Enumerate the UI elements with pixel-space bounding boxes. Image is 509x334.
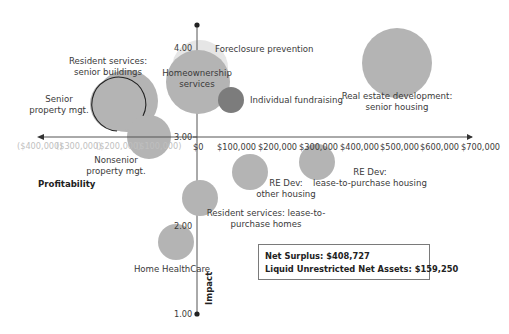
label-resident-services-senior-2: senior buildings bbox=[74, 67, 143, 77]
x-axis-left-arrow-icon bbox=[37, 134, 44, 140]
label-resident-services-senior-1: Resident services: bbox=[69, 56, 147, 66]
y-tick-label-1: 1.00 bbox=[174, 309, 192, 319]
x-tick-label-neg-200k: ($200,000) bbox=[96, 141, 141, 151]
x-tick-label-700k: $700,000 bbox=[461, 142, 500, 152]
label-home-healthcare: Home HealthCare bbox=[134, 264, 210, 274]
y-axis-bottom-dot-icon bbox=[194, 311, 199, 316]
x-tick-label-0: $0 bbox=[193, 142, 203, 152]
label-resident-services-ltp-1: Resident services: lease-to- bbox=[207, 208, 326, 218]
y-axis-title: Impact bbox=[204, 272, 214, 305]
label-re-senior-housing-1: Real estate development: bbox=[342, 91, 453, 101]
label-foreclosure-prevention: Foreclosure prevention bbox=[215, 44, 314, 54]
label-nonsenior-property-mgt-2: property mgt. bbox=[86, 166, 145, 176]
label-homeownership-services-2: services bbox=[179, 79, 215, 89]
label-senior-property-mgt-2: property mgt. bbox=[29, 105, 88, 115]
net-surplus: Net Surplus: $408,727 bbox=[265, 250, 423, 263]
y-tick-label-2: 2.00 bbox=[174, 221, 192, 231]
x-tick-label-400k: $400,000 bbox=[340, 142, 379, 152]
x-tick-label-600k: $600,000 bbox=[420, 142, 459, 152]
x-tick-label-neg-100k: ($100,000) bbox=[136, 141, 181, 151]
label-homeownership-services-1: Homeownership bbox=[162, 68, 232, 78]
bubble-chart: 4.00 3.00 2.00 1.00 ($400,000) ($300,000… bbox=[0, 0, 509, 334]
label-re-senior-housing-2: senior housing bbox=[365, 102, 428, 112]
label-resident-services-ltp-2: purchase homes bbox=[230, 219, 302, 229]
label-re-dev-ltp-housing-1: RE Dev: bbox=[353, 167, 387, 177]
y-tick-label-4: 4.00 bbox=[174, 43, 192, 53]
y-axis-top-dot-icon bbox=[194, 22, 199, 27]
x-tick-label-200k: $200,000 bbox=[258, 142, 297, 152]
liquid-unrestricted-net-assets: Liquid Unrestricted Net Assets: $159,250 bbox=[265, 263, 423, 276]
bubble-re-dev-other-housing[interactable] bbox=[232, 154, 268, 190]
label-re-dev-other-housing-2: other housing bbox=[256, 189, 316, 199]
label-nonsenior-property-mgt-1: Nonsenior bbox=[94, 155, 138, 165]
label-re-dev-other-housing-1: RE Dev: bbox=[269, 178, 303, 188]
x-tick-label-300k: $300,000 bbox=[299, 142, 338, 152]
x-tick-label-500k: $500,000 bbox=[380, 142, 419, 152]
x-axis-title: Profitability bbox=[38, 179, 96, 189]
label-individual-fundraising: Individual fundraising bbox=[250, 95, 343, 105]
bubble-real-estate-senior-housing[interactable] bbox=[362, 28, 432, 98]
label-senior-property-mgt-1: Senior bbox=[45, 94, 73, 104]
bubble-individual-fundraising[interactable] bbox=[218, 87, 244, 113]
x-tick-label-100k: $100,000 bbox=[217, 142, 256, 152]
x-tick-label-neg-300k: ($300,000) bbox=[56, 141, 101, 151]
summary-box: Net Surplus: $408,727 Liquid Unrestricte… bbox=[258, 244, 430, 280]
label-re-dev-ltp-housing-2: lease-to-purchase housing bbox=[313, 178, 427, 188]
